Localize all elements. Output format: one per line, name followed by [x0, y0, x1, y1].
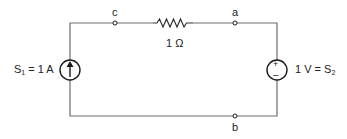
current-source-value: = 1 A [25, 63, 53, 75]
resistor-icon [153, 19, 193, 27]
wire-bottom-left [70, 80, 233, 116]
voltage-source-prefix: 1 V = S [295, 63, 331, 75]
node-a-terminal [233, 21, 237, 25]
current-source-icon [60, 60, 80, 80]
current-source-label: S1 = 1 A [14, 64, 54, 76]
node-c-label: c [112, 7, 118, 18]
wire-left-top [70, 23, 113, 60]
node-a-label: a [232, 7, 238, 18]
wire-right-bottom [237, 80, 277, 116]
resistor-label: 1 Ω [166, 38, 183, 49]
plus-sign: + [273, 60, 278, 69]
voltage-source-label: 1 V = S2 [295, 64, 335, 76]
node-b-label: b [232, 122, 238, 133]
minus-sign: − [273, 71, 279, 81]
wire-a-right [237, 23, 277, 60]
voltage-source-subscript: 2 [331, 69, 335, 76]
node-b-terminal [233, 114, 237, 118]
node-c-terminal [113, 21, 117, 25]
